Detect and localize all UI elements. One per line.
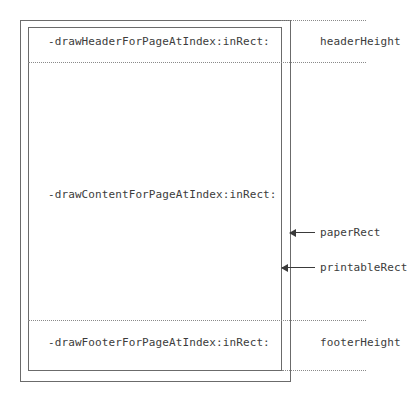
header-height-label: headerHeight	[320, 35, 401, 48]
printable-rect-label: printableRect	[320, 261, 407, 274]
footer-height-guide-line	[28, 320, 366, 321]
footer-height-label: footerHeight	[320, 336, 401, 349]
header-height-guide-line	[28, 62, 366, 63]
footer-method-label: -drawFooterForPageAtIndex:inRect:	[48, 336, 270, 349]
header-method-label: -drawHeaderForPageAtIndex:inRect:	[48, 35, 270, 48]
content-method-label: -drawContentForPageAtIndex:inRect:	[48, 188, 277, 201]
paper-rect-leader-arrow	[290, 232, 315, 233]
paper-top-guide-line	[281, 20, 366, 21]
printable-rect-leader-arrow	[282, 267, 315, 268]
paper-rect-label: paperRect	[320, 226, 381, 239]
diagram-canvas: -drawHeaderForPageAtIndex:inRect: -drawC…	[0, 0, 419, 399]
printable-bottom-guide-line	[282, 370, 366, 371]
